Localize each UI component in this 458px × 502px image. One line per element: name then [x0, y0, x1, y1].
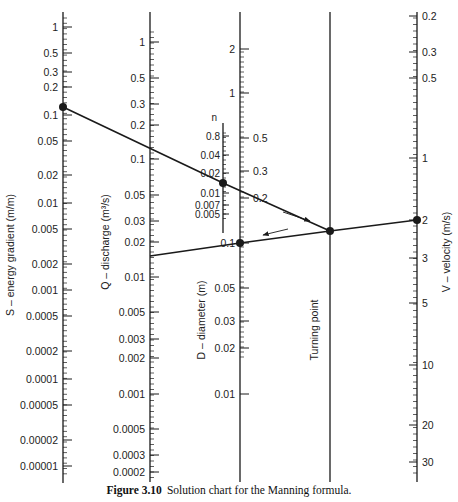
- solution-line-Q-to-V: [150, 220, 417, 256]
- n-axis-title: n: [211, 112, 217, 123]
- tick-label: 0.05: [215, 282, 236, 294]
- tick-label: 0.5: [253, 132, 268, 144]
- tick-label: 0.5: [422, 72, 437, 84]
- tick-label: 0.3: [43, 66, 58, 78]
- turning-point: [326, 227, 334, 235]
- tick-label: 2: [229, 43, 235, 55]
- tick-label: 0.3: [253, 165, 268, 177]
- axis-title-D: D – diameter (m): [195, 281, 207, 360]
- figure-caption: Figure 3.10Solution chart for the Mannin…: [0, 484, 458, 496]
- tick-label: 2: [422, 214, 428, 226]
- tick-label: 1: [229, 87, 235, 99]
- V-point: [413, 216, 421, 224]
- tick-label: 0.01: [125, 271, 146, 283]
- S-point: [59, 103, 67, 111]
- tick-label: 0.002: [119, 352, 145, 364]
- tick-label: 0.03: [125, 215, 146, 227]
- figure-caption-text: Solution chart for the Manning formula.: [167, 484, 352, 496]
- tick-label: 0.0003: [113, 449, 145, 461]
- axis-Q: 10.50.30.20.10.050.030.020.010.0050.0030…: [113, 12, 159, 482]
- tick-label: 0.03: [215, 315, 236, 327]
- tick-label: 5: [422, 297, 428, 309]
- tick-label: 0.3: [130, 98, 145, 110]
- tick-label: 0.8: [206, 131, 220, 142]
- tick-label: 0.00001: [20, 460, 58, 472]
- axis-title-V: V – velocity (m/s): [440, 212, 452, 293]
- tick-label: 0.5: [43, 47, 58, 59]
- axis-titles: S – energy gradient (m/m)Q – discharge (…: [4, 194, 452, 360]
- tick-label: 0.1: [220, 237, 235, 249]
- tick-label: 0.01: [38, 197, 59, 209]
- tick-label: 0.0005: [113, 423, 145, 435]
- figure-number: Figure 3.10: [107, 484, 162, 496]
- axis-title-S: S – energy gradient (m/m): [4, 194, 16, 316]
- tick-label: 0.05: [125, 189, 146, 201]
- tick-label: 0.01: [201, 188, 221, 199]
- tick-label: 0.2: [130, 119, 145, 131]
- manning-nomograph: 10.50.30.20.10.050.020.010.0050.0020.001…: [0, 0, 458, 484]
- n-point: [219, 179, 227, 187]
- tick-label: 0.0002: [113, 466, 145, 478]
- tick-label: 30: [422, 456, 434, 468]
- arrow-toward-D-icon: [263, 229, 288, 235]
- tick-label: 0.02: [125, 236, 146, 248]
- tick-label: 0.003: [119, 333, 145, 345]
- axis-V: 0.20.30.51235102030: [409, 10, 437, 482]
- tick-label: 0.02: [215, 342, 236, 354]
- arrow-toward-turning-point-icon: [283, 212, 310, 221]
- tick-label: 0.1: [130, 153, 145, 165]
- axis-D: 210.10.050.030.020.010.50.30.2: [215, 12, 268, 482]
- tick-label: 0.001: [32, 284, 58, 296]
- tick-label: 0.04: [201, 150, 221, 161]
- tick-label: 10: [422, 359, 434, 371]
- tick-label: 0.2: [422, 10, 437, 22]
- tick-label: 20: [422, 419, 434, 431]
- tick-label: 0.001: [119, 388, 145, 400]
- tick-label: 0.1: [43, 109, 58, 121]
- tick-label: 0.00005: [20, 399, 58, 411]
- tick-label: 0.01: [215, 388, 236, 400]
- tick-label: 0.5: [130, 72, 145, 84]
- tick-label: 0.005: [32, 223, 58, 235]
- tick-label: 0.05: [38, 135, 59, 147]
- tick-label: 0.3: [422, 46, 437, 58]
- tick-label: 0.02: [38, 169, 59, 181]
- tick-label: 0.0002: [26, 345, 58, 357]
- axis-title-Q: Q – discharge (m³/s): [99, 194, 111, 290]
- tick-label: 1: [139, 36, 145, 48]
- tick-label: 0.0001: [26, 373, 58, 385]
- tick-label: 0.00002: [20, 434, 58, 446]
- tick-label: 3: [422, 252, 428, 264]
- tick-label: 0.005: [195, 209, 220, 220]
- tick-label: 1: [422, 152, 428, 164]
- axis-S: 10.50.30.20.10.050.020.010.0050.0020.001…: [20, 12, 72, 483]
- D-point: [236, 239, 244, 247]
- tick-label: 0.2: [43, 81, 58, 93]
- axis-title-turning-point: Turning point: [308, 299, 320, 360]
- tick-label: 0.005: [119, 306, 145, 318]
- axes-layer: 10.50.30.20.10.050.020.010.0050.0020.001…: [20, 10, 437, 483]
- tick-label: 1: [52, 21, 58, 33]
- tick-label: 0.002: [32, 258, 58, 270]
- tick-label: 0.0005: [26, 310, 58, 322]
